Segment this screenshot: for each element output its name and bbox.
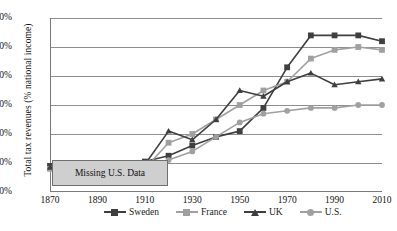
y-tick-label: 50% <box>0 42 12 52</box>
gridline <box>51 134 382 135</box>
chart-container: Total tax revenues (% national income) 0… <box>0 0 397 231</box>
x-tick-label: 1990 <box>312 195 358 205</box>
y-tick-label: 20% <box>0 129 12 139</box>
y-tick-label: 0% <box>0 187 12 197</box>
y-axis-title: Total tax revenues (% national income) <box>23 10 33 190</box>
legend-label: UK <box>269 207 283 217</box>
gridline <box>51 47 382 48</box>
x-tick-label: 2010 <box>359 195 397 205</box>
legend-item-us[interactable]: U.S. <box>300 207 342 217</box>
legend-item-sweden[interactable]: Sweden <box>104 207 159 217</box>
gridline <box>51 18 382 19</box>
x-tick-label: 1970 <box>264 195 310 205</box>
legend-item-uk[interactable]: UK <box>244 207 283 217</box>
gridline <box>51 76 382 77</box>
legend-label: France <box>201 207 227 217</box>
x-tick-label: 1870 <box>27 195 73 205</box>
y-tick-label: 60% <box>0 13 12 23</box>
legend-label: U.S. <box>325 207 342 217</box>
chart-legend: SwedenFranceUKU.S. <box>104 207 342 217</box>
y-tick-label: 30% <box>0 100 12 110</box>
missing-data-annotation: Missing U.S. Data <box>52 160 168 186</box>
gridline <box>51 105 382 106</box>
x-tick-label: 1890 <box>74 195 120 205</box>
legend-item-france[interactable]: France <box>176 207 227 217</box>
missing-data-label: Missing U.S. Data <box>75 168 145 178</box>
legend-label: Sweden <box>129 207 159 217</box>
x-tick-label: 1930 <box>169 195 215 205</box>
x-tick-label: 1910 <box>122 195 168 205</box>
x-tick-label: 1950 <box>217 195 263 205</box>
legend-marker-circle-icon <box>300 207 322 217</box>
legend-marker-square-icon <box>176 207 198 217</box>
y-tick-label: 40% <box>0 71 12 81</box>
y-tick-label: 10% <box>0 158 12 168</box>
legend-marker-triangle-icon <box>244 207 266 217</box>
legend-marker-square-icon <box>104 207 126 217</box>
